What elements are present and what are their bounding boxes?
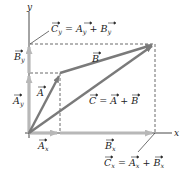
cx-leader-line bbox=[138, 133, 155, 152]
svg-text:Cx = Ax + Bx: Cx = Ax + Bx bbox=[104, 157, 164, 170]
vector-c bbox=[29, 46, 152, 133]
vector-a bbox=[29, 76, 59, 133]
label-a: A bbox=[36, 87, 44, 98]
vector-addition-diagram: y x bbox=[0, 0, 190, 180]
main-vectors bbox=[29, 45, 152, 133]
cx-equation: Cx = Ax + Bx bbox=[104, 157, 164, 170]
label-by: By bbox=[13, 51, 25, 64]
label-b: B bbox=[91, 53, 99, 64]
svg-text:Cy = Ay + By: Cy = Ay + By bbox=[51, 23, 112, 36]
vector-b bbox=[60, 45, 152, 73]
cy-leader-line bbox=[30, 31, 49, 44]
label-ax: Ax bbox=[37, 140, 49, 153]
svg-text:C = A + B: C = A + B bbox=[89, 95, 138, 106]
c-equation: C = A + B bbox=[89, 95, 138, 106]
y-axis-label: y bbox=[26, 2, 33, 12]
x-axis-label: x bbox=[174, 128, 179, 138]
label-ay: Ay bbox=[12, 95, 24, 108]
cy-equation: Cy = Ay + By bbox=[51, 23, 112, 36]
label-bx: Bx bbox=[104, 140, 116, 153]
